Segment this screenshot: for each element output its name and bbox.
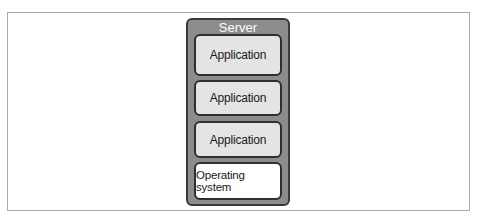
- operating-system-label: Operating system: [196, 169, 280, 193]
- server-box: Server Application Application Applicati…: [186, 18, 290, 206]
- application-box-2: Application: [194, 80, 282, 116]
- application-label: Application: [210, 48, 267, 62]
- application-label: Application: [210, 91, 267, 105]
- server-label: Server: [188, 21, 288, 35]
- operating-system-box: Operating system: [194, 162, 282, 200]
- application-box-3: Application: [194, 121, 282, 158]
- application-box-1: Application: [194, 34, 282, 76]
- application-label: Application: [210, 133, 267, 147]
